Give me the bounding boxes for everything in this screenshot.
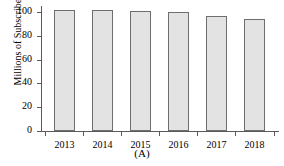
y-axis-tick-label: 0	[27, 124, 32, 135]
bar	[92, 10, 113, 131]
figure-caption: (A)	[0, 147, 284, 159]
x-axis-tick	[235, 131, 236, 136]
x-axis-tick	[121, 131, 122, 136]
y-axis-tick: 60	[37, 60, 42, 61]
x-axis-tick	[197, 131, 198, 136]
y-axis-tick-label: 80	[22, 29, 32, 40]
y-axis-tick-label: 40	[22, 76, 32, 87]
y-axis-tick: 0	[37, 131, 42, 132]
bar	[130, 11, 151, 131]
y-axis-tick: 80	[37, 36, 42, 37]
y-axis-tick-label: 100	[17, 5, 32, 16]
x-axis-tick	[45, 131, 46, 136]
y-axis-line	[41, 6, 42, 131]
bar	[206, 16, 227, 131]
y-axis-tick: 40	[37, 83, 42, 84]
x-axis-tick	[83, 131, 84, 136]
plot-area: 020406080100 201320142015201620172018	[41, 6, 279, 131]
y-axis-tick-label: 20	[22, 100, 32, 111]
bar-chart-figure: Millions of Subscribers 020406080100 201…	[0, 0, 284, 166]
x-axis-tick	[274, 131, 275, 136]
bar	[168, 12, 189, 131]
y-axis-tick: 20	[37, 107, 42, 108]
x-axis-tick	[159, 131, 160, 136]
bar	[244, 19, 265, 131]
y-axis-tick: 100	[37, 12, 42, 13]
bar	[54, 10, 75, 131]
x-axis-line	[41, 131, 279, 132]
y-axis-tick-label: 60	[22, 53, 32, 64]
